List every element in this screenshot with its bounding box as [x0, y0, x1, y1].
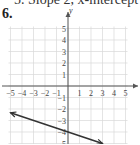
svg-text:−5: −5	[6, 89, 15, 98]
svg-text:−1: −1	[57, 94, 66, 103]
svg-text:y: y	[68, 6, 73, 15]
svg-text:4: 4	[62, 36, 66, 45]
svg-text:−2: −2	[57, 105, 66, 114]
svg-text:3: 3	[62, 48, 66, 57]
tick-labels: −5−4−3−2−11234554321−1−2−3−4−5	[6, 25, 127, 145]
svg-text:−3: −3	[57, 117, 66, 126]
svg-text:2: 2	[89, 89, 93, 98]
svg-text:5: 5	[62, 25, 66, 34]
svg-text:−3: −3	[29, 89, 38, 98]
svg-text:4: 4	[112, 89, 116, 98]
svg-text:−4: −4	[18, 89, 27, 98]
svg-text:−2: −2	[41, 89, 50, 98]
svg-text:5: 5	[124, 89, 128, 98]
coordinate-plane: y −5−4−3−2−11234554321−1−2−3−4−5	[0, 0, 140, 144]
svg-text:3: 3	[101, 89, 105, 98]
axes: y	[2, 6, 138, 144]
svg-text:1: 1	[78, 89, 82, 98]
svg-text:−5: −5	[57, 140, 66, 145]
svg-text:1: 1	[62, 71, 66, 80]
svg-text:2: 2	[62, 59, 66, 68]
